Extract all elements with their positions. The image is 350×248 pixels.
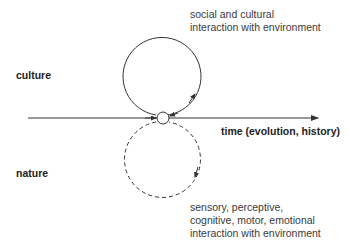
present-node bbox=[157, 112, 169, 124]
culture-description-line-2: interaction with environment bbox=[190, 21, 321, 34]
culture-loop-description: social and cultural interaction with env… bbox=[190, 8, 321, 34]
culture-loop bbox=[123, 37, 201, 115]
nature-label: nature bbox=[16, 167, 48, 180]
nature-loop bbox=[125, 122, 201, 197]
nature-description-line-3: interaction with environment bbox=[190, 227, 321, 240]
nature-description-line-2: cognitive, motor, emotional bbox=[190, 214, 321, 227]
time-axis-label: time (evolution, history) bbox=[221, 125, 340, 138]
nature-description-line-1: sensory, perceptive, bbox=[190, 201, 321, 214]
culture-label: culture bbox=[16, 69, 51, 82]
nature-loop-description: sensory, perceptive, cognitive, motor, e… bbox=[190, 201, 321, 240]
culture-description-line-1: social and cultural bbox=[190, 8, 321, 21]
